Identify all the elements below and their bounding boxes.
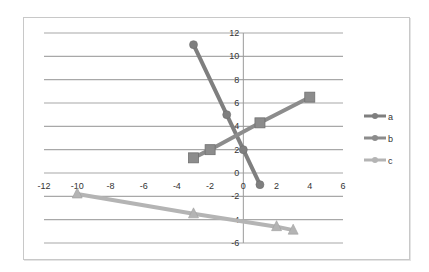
legend-marker-icon (372, 135, 378, 141)
x-tick-label: -8 (106, 181, 114, 191)
series-a (190, 41, 264, 189)
legend-label: c (388, 156, 393, 166)
diamond-marker (239, 146, 247, 154)
data-series (72, 41, 315, 235)
legend-label: b (388, 134, 393, 144)
square-marker (255, 118, 265, 128)
x-tick-label: -4 (173, 181, 181, 191)
series-c (72, 188, 298, 234)
square-marker (189, 153, 199, 163)
y-tick-label: -2 (231, 191, 239, 201)
x-tick-label: 0 (241, 181, 246, 191)
scatter-chart: -6-4-2024681012-12-10-8-6-4-20246 abc (0, 0, 429, 272)
y-tick-label: 6 (234, 98, 239, 108)
diamond-marker (190, 41, 198, 49)
y-tick-label: -6 (231, 238, 239, 248)
legend-marker-icon (372, 113, 378, 119)
legend-item-b: b (364, 134, 393, 144)
y-tick-label: 12 (229, 28, 239, 38)
y-tick-label: 0 (234, 168, 239, 178)
x-tick-label: 6 (340, 181, 345, 191)
legend-item-c: c (364, 156, 393, 166)
x-tick-label: -12 (37, 181, 50, 191)
y-tick-label: 10 (229, 51, 239, 61)
x-tick-label: 4 (307, 181, 312, 191)
y-tick-label: 2 (234, 145, 239, 155)
legend-item-a: a (364, 112, 393, 122)
x-tick-label: -6 (140, 181, 148, 191)
x-tick-label: -2 (206, 181, 214, 191)
diamond-marker (256, 181, 264, 189)
legend-marker-icon (372, 157, 378, 163)
legend: abc (364, 112, 393, 166)
diamond-marker (223, 111, 231, 119)
legend-label: a (388, 112, 393, 122)
x-tick-label: 2 (274, 181, 279, 191)
y-tick-label: 8 (234, 75, 239, 85)
series-line (77, 194, 293, 230)
square-marker (305, 92, 315, 102)
square-marker (205, 145, 215, 155)
